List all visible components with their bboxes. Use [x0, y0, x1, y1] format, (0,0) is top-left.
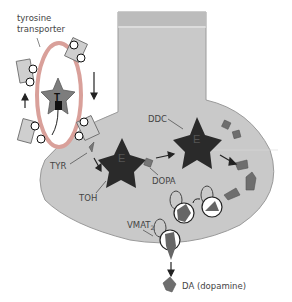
- label-tyr: TYR: [49, 161, 66, 171]
- label-tyrosine: tyrosine: [17, 13, 51, 23]
- label-transporter: transporter: [17, 24, 66, 34]
- label-vmat: VMAT2: [127, 220, 155, 231]
- tyrosine-transporter: T: [16, 38, 99, 147]
- label-dopa: DOPA: [152, 176, 176, 186]
- label-dopamine: DA (dopamine): [182, 281, 246, 291]
- enzyme1-symbol: E: [118, 152, 125, 164]
- label-ddc: DDC: [148, 114, 167, 124]
- enzyme2-symbol: E: [193, 133, 200, 145]
- dopamine-synthesis-diagram: T tyrosine transporter TYR: [0, 0, 292, 302]
- released-dopamine: [163, 277, 176, 292]
- label-toh: TOH: [78, 193, 97, 203]
